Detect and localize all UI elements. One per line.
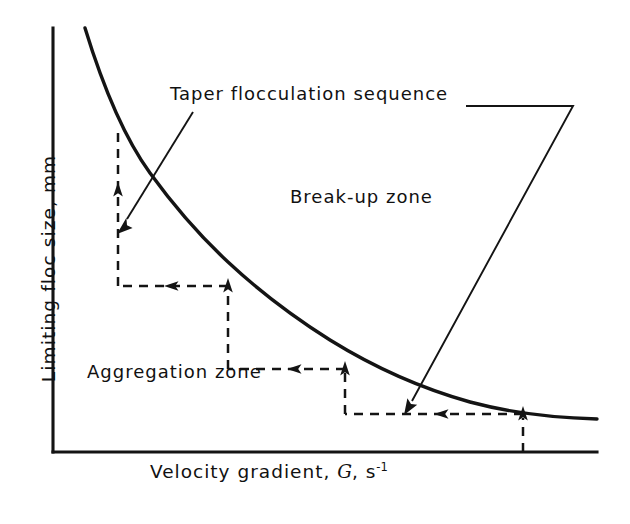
figure-container: Limiting floc size, mm Velocity gradient… [0, 0, 630, 524]
annotation-taper-flocculation-sequence: Taper flocculation sequence [170, 83, 448, 104]
x-axis-label-separator: , s [352, 461, 376, 482]
staircase-tread-1-arrowhead-left [434, 409, 449, 419]
x-axis-label-superscript: -1 [376, 460, 387, 474]
staircase-tread-2-arrowhead-left [287, 364, 302, 374]
leader-line-taper-lower [412, 106, 573, 401]
x-axis-label-symbol: G [337, 461, 352, 482]
annotation-aggregation-zone: Aggregation zone [87, 361, 262, 382]
leader-line-taper-lower-arrowhead [404, 398, 417, 415]
annotation-break-up-zone: Break-up zone [290, 186, 433, 207]
x-axis-label-main: Velocity gradient, [150, 461, 337, 482]
x-axis-label: Velocity gradient, G, s-1 [150, 460, 388, 482]
figure-plot-area [0, 0, 630, 524]
taper-staircase-group [113, 128, 528, 452]
leader-line-taper-lower-group [404, 106, 573, 415]
leader-line-taper-upper [127, 112, 193, 219]
y-axis-label: Limiting floc size, mm [38, 139, 59, 399]
staircase-riser-4-arrowhead-up [113, 182, 123, 197]
leader-line-taper-upper-arrowhead [117, 218, 133, 234]
